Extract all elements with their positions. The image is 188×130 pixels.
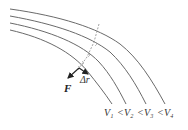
equipotential-diagram: F Δr V₁ < V₂ < V₃ < V₄ <box>0 0 188 130</box>
force-vector-arrow <box>68 68 79 78</box>
v4-label: V₄ <box>164 107 174 118</box>
lt-symbol: < <box>157 107 164 118</box>
force-label: F <box>63 82 72 94</box>
potential-order-label: V₁ < V₂ < V₃ < V₄ <box>104 107 174 118</box>
v1-label: V₁ <box>104 107 114 118</box>
equipotential-line-v3 <box>10 16 146 104</box>
equipotential-line-v4 <box>10 9 165 104</box>
lt-symbol: < <box>137 107 144 118</box>
v2-label: V₂ <box>124 107 134 118</box>
equipotential-line-v1 <box>10 30 112 104</box>
lt-symbol: < <box>117 107 124 118</box>
v3-label: V₃ <box>144 107 154 118</box>
displacement-label: Δr <box>79 74 90 85</box>
